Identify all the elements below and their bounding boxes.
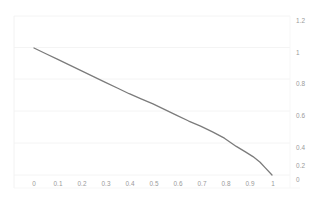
y-tick-label-0.4: 0.4 [296, 145, 305, 151]
chart-container: 1.2 1 0.8 0.6 0.4 0.2 0 0 0.1 0.2 0.3 0.… [0, 0, 318, 205]
x-tick-label-0.7: 0.7 [197, 181, 206, 187]
y-tick-label-0.2: 0.2 [296, 163, 305, 169]
x-tick-label-0.2: 0.2 [77, 181, 86, 187]
plot-area [0, 0, 318, 205]
y-tick-label-0.8: 0.8 [296, 81, 305, 87]
y-tick-label-1.2: 1.2 [296, 18, 305, 24]
x-tick-label-0.1: 0.1 [53, 181, 62, 187]
y-tick-label-1: 1 [296, 50, 300, 56]
x-tick-label-0.4: 0.4 [125, 181, 134, 187]
y-tick-label-0.6: 0.6 [296, 113, 305, 119]
x-tick-label-0.9: 0.9 [245, 181, 254, 187]
x-tick-label-0.6: 0.6 [173, 181, 182, 187]
x-tick-label-0.3: 0.3 [101, 181, 110, 187]
x-tick-label-0.8: 0.8 [221, 181, 230, 187]
axis-frame [14, 16, 300, 188]
x-tick-label-1: 1 [271, 181, 275, 187]
x-tick-label-0.5: 0.5 [149, 181, 158, 187]
grid-lines [14, 16, 290, 175]
x-tick-label-0: 0 [32, 181, 36, 187]
y-tick-label-0: 0 [296, 177, 300, 183]
